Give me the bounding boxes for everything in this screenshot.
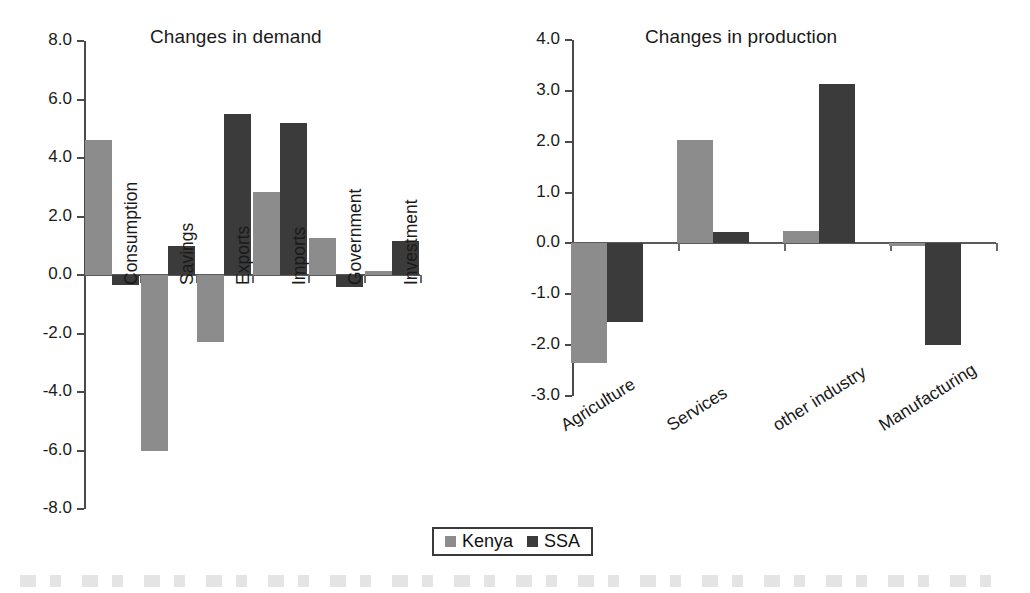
x-axis-category-label: Exports [233, 226, 254, 285]
figure-two-panel-bar-charts: Changes in demand 8.06.04.02.00.0-2.0-4.… [0, 0, 1030, 593]
bar-kenya-other-industry [783, 231, 819, 244]
x-axis-category-label: Savings [177, 223, 198, 285]
bar-kenya-imports [253, 192, 280, 275]
y-axis-tick-label: 4.0 [6, 147, 72, 167]
y-axis-tick [565, 192, 572, 194]
bar-kenya-services [677, 140, 713, 243]
x-axis-category-label: Manufacturing [875, 359, 980, 436]
y-axis-tick-label: -8.0 [6, 498, 72, 518]
y-axis-tick [565, 39, 572, 41]
y-axis-tick-label: -4.0 [6, 381, 72, 401]
y-axis-tick-label: -3.0 [494, 385, 560, 405]
y-axis-tick-label: -2.0 [6, 323, 72, 343]
x-axis-category-label: Consumption [121, 182, 142, 285]
y-axis-tick-label: 0.0 [6, 264, 72, 284]
y-axis-tick-label: 1.0 [494, 182, 560, 202]
y-axis-tick [565, 141, 572, 143]
legend-item-kenya: Kenya [445, 532, 513, 550]
y-axis-tick [77, 274, 84, 276]
y-axis-tick-label: 8.0 [6, 30, 72, 50]
x-axis-category-label: Agriculture [557, 374, 639, 436]
bar-ssa-agriculture [607, 243, 643, 322]
bar-kenya-savings [141, 275, 168, 451]
x-axis-category-label: Imports [289, 227, 310, 285]
x-axis-category-label: Services [663, 382, 731, 435]
legend-swatch-ssa-icon [527, 536, 538, 547]
y-axis-tick-label: -6.0 [6, 440, 72, 460]
y-axis-tick [565, 395, 572, 397]
y-axis-tick [77, 40, 84, 42]
bar-ssa-services [713, 232, 749, 243]
bar-kenya-government [309, 238, 336, 275]
y-axis-tick [77, 391, 84, 393]
chart-legend: Kenya SSA [432, 527, 593, 556]
y-axis-tick-label: 0.0 [494, 232, 560, 252]
y-axis-tick [77, 333, 84, 335]
y-axis-tick-label: 3.0 [494, 80, 560, 100]
y-axis-tick [77, 99, 84, 101]
legend-swatch-kenya-icon [445, 536, 456, 547]
x-axis-category-label: other industry [769, 362, 870, 436]
bar-kenya-agriculture [571, 243, 607, 363]
x-axis-tick [678, 243, 680, 251]
y-axis-tick-label: -1.0 [494, 283, 560, 303]
bar-ssa-other-industry [819, 84, 855, 243]
bar-kenya-manufacturing [889, 243, 925, 246]
bar-kenya-exports [197, 275, 224, 342]
legend-label-ssa: SSA [544, 532, 580, 550]
chart-panel-changes-in-production: Changes in production 4.03.02.01.00.0-1.… [480, 0, 1030, 520]
x-axis-category-label: Investment [401, 199, 422, 285]
y-axis-tick-label: 6.0 [6, 89, 72, 109]
bar-kenya-consumption [85, 140, 112, 275]
bar-ssa-manufacturing [925, 243, 961, 345]
y-axis-tick-label: -2.0 [494, 334, 560, 354]
chart-panel-changes-in-demand: Changes in demand 8.06.04.02.00.0-2.0-4.… [0, 0, 470, 520]
y-axis-tick [77, 508, 84, 510]
x-axis-tick [996, 243, 998, 251]
y-axis-tick-label: 4.0 [494, 29, 560, 49]
y-axis-tick [77, 157, 84, 159]
scan-artifact [20, 575, 1010, 587]
legend-item-ssa: SSA [527, 532, 580, 550]
y-axis-tick [77, 450, 84, 452]
chart-title-production: Changes in production [645, 26, 837, 48]
legend-label-kenya: Kenya [462, 532, 513, 550]
x-axis-category-label: Government [345, 189, 366, 285]
y-axis-tick [565, 90, 572, 92]
chart-title-demand: Changes in demand [150, 26, 322, 48]
y-axis-tick [77, 216, 84, 218]
y-axis-tick-label: 2.0 [494, 131, 560, 151]
x-axis-tick [784, 243, 786, 251]
bar-kenya-investment [365, 271, 392, 275]
y-axis-tick-label: 2.0 [6, 206, 72, 226]
